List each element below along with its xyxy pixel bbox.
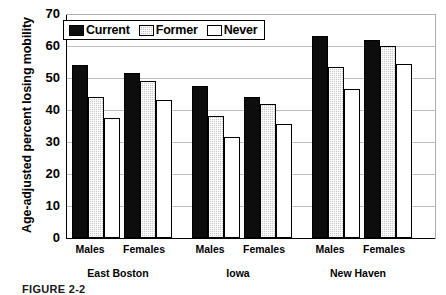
- bar-new-haven-males-former[interactable]: [328, 67, 344, 238]
- bar-east-boston-females-current[interactable]: [124, 73, 140, 238]
- group-label-east-boston: East Boston: [60, 267, 176, 279]
- bar-east-boston-males-current[interactable]: [72, 65, 88, 238]
- bar-new-haven-females-former[interactable]: [380, 46, 396, 238]
- x-tick-label-iowa-females: Females: [231, 243, 297, 255]
- y-tick-label-60: 60: [30, 39, 60, 52]
- legend-item-current[interactable]: Current: [69, 23, 130, 37]
- legend-swatch-former-icon: [139, 25, 154, 36]
- legend-item-never[interactable]: Never: [207, 23, 258, 37]
- bar-new-haven-males-current[interactable]: [312, 36, 328, 238]
- bar-iowa-males-never[interactable]: [224, 137, 240, 238]
- bar-east-boston-females-never[interactable]: [156, 100, 172, 238]
- y-tick-label-0: 0: [30, 231, 60, 244]
- legend: Current Former Never: [63, 20, 265, 40]
- legend-item-former[interactable]: Former: [139, 23, 198, 37]
- x-tick-label-new-haven-females: Females: [351, 243, 417, 255]
- y-tick-label-70: 70: [30, 7, 60, 20]
- legend-swatch-current-icon: [69, 25, 84, 36]
- legend-label-former: Former: [156, 23, 198, 37]
- legend-swatch-never-icon: [207, 25, 222, 36]
- x-tick-label-east-boston-females: Females: [111, 243, 177, 255]
- y-tick-label-50: 50: [30, 71, 60, 84]
- bar-iowa-males-former[interactable]: [208, 116, 224, 238]
- bar-new-haven-females-current[interactable]: [364, 40, 380, 238]
- bar-new-haven-males-never[interactable]: [344, 89, 360, 238]
- legend-label-current: Current: [86, 23, 130, 37]
- plot-area: [66, 14, 436, 239]
- bar-east-boston-males-former[interactable]: [88, 97, 104, 238]
- bar-new-haven-females-never[interactable]: [396, 64, 412, 238]
- bar-east-boston-males-never[interactable]: [104, 118, 120, 238]
- bar-east-boston-females-former[interactable]: [140, 81, 156, 238]
- legend-label-never: Never: [224, 23, 258, 37]
- figure-caption: FIGURE 2-2: [22, 283, 86, 295]
- y-tick-label-20: 20: [30, 167, 60, 180]
- y-tick-label-30: 30: [30, 135, 60, 148]
- bar-iowa-females-never[interactable]: [276, 124, 292, 238]
- bar-iowa-males-current[interactable]: [192, 86, 208, 238]
- bar-iowa-females-current[interactable]: [244, 97, 260, 238]
- y-tick-label-10: 10: [30, 199, 60, 212]
- group-label-iowa: Iowa: [180, 267, 296, 279]
- bar-iowa-females-former[interactable]: [260, 104, 276, 238]
- y-tick-label-40: 40: [30, 103, 60, 116]
- group-label-new-haven: New Haven: [300, 267, 416, 279]
